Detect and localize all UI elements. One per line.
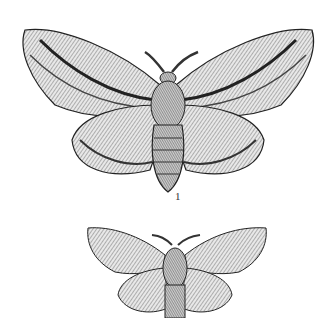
moth-illustration bbox=[0, 0, 334, 318]
moth-small bbox=[88, 228, 267, 318]
moth-large bbox=[23, 29, 313, 192]
specimen-number: 1 bbox=[175, 190, 181, 202]
